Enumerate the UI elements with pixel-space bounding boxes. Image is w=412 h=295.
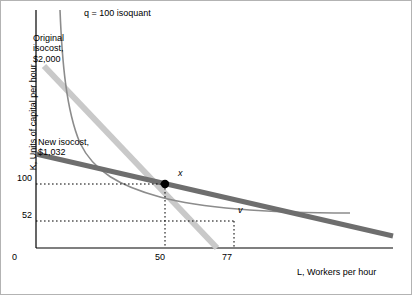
isoquant-annotation: q = 100 isoquant xyxy=(84,8,151,18)
x-tick-77: 77 xyxy=(222,252,232,262)
x-axis-label: L, Workers per hour xyxy=(297,267,376,277)
y-tick-52: 52 xyxy=(6,210,32,220)
original-isocost-annotation: Original isocost, $2,000 xyxy=(33,33,64,64)
x-tick-0: 0 xyxy=(12,252,17,262)
data-point-x-marker xyxy=(161,180,169,188)
y-tick-100: 100 xyxy=(6,173,32,183)
data-point-x-label: x xyxy=(178,168,183,178)
new-isocost-annotation: New isocost, $1,032 xyxy=(38,137,89,158)
x-tick-50: 50 xyxy=(155,252,165,262)
chart-figure: K, Units of capital per hour L, Workers … xyxy=(0,0,412,295)
data-point-v-label: v xyxy=(238,205,243,215)
